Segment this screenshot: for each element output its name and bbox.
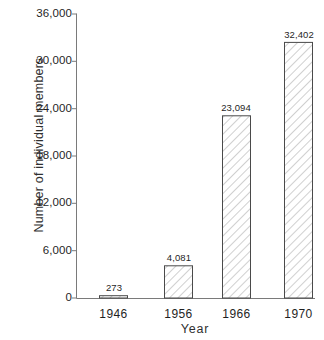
y-tick-marks (72, 14, 77, 298)
x-tick-1966: 1966 (211, 304, 262, 320)
x-axis-title: Year (76, 322, 314, 336)
bar-value-1970: 32,402 (274, 29, 324, 41)
plot-area (0, 0, 324, 340)
bar-value-1946: 273 (89, 282, 139, 294)
x-tick-label: 1956 (164, 307, 192, 321)
bar-value-1966: 23,094 (211, 102, 261, 114)
x-tick-1956: 1956 (153, 304, 204, 320)
x-tick-label: 1966 (222, 307, 250, 321)
bar-1970 (285, 42, 313, 298)
x-tick-1970: 1970 (273, 304, 324, 320)
x-tick-1946: 1946 (88, 304, 139, 320)
x-tick-label: 1970 (284, 307, 312, 321)
bar-1956 (165, 266, 193, 298)
bar-value-1956: 4,081 (154, 252, 204, 264)
x-tick-label: 1946 (99, 307, 127, 321)
bar-1946 (100, 296, 128, 298)
bar-1966 (223, 116, 251, 298)
bar-chart: Number of individual members 36,000 30,0… (0, 0, 324, 340)
